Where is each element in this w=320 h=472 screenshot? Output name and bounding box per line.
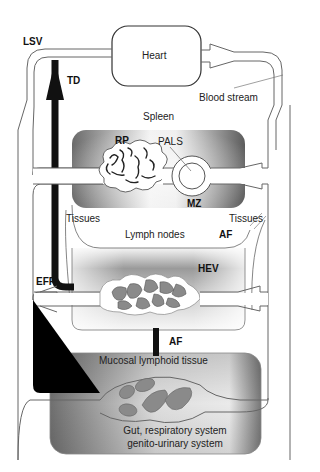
mz-label: MZ (187, 199, 201, 209)
lymph-nodes-label: Lymph nodes (125, 230, 185, 240)
hev-label: HEV (198, 264, 219, 274)
blood-stream-pointer (234, 75, 283, 88)
rp-label: RP (115, 136, 129, 146)
pals-label: PALS (158, 137, 183, 147)
gut-label-line2: genito-urinary system (100, 439, 250, 449)
blood-stream-label: Blood stream (199, 93, 258, 103)
tissues-right-label: Tissues (229, 214, 263, 224)
af-bottom-label: AF (169, 337, 182, 347)
mucosal-label: Mucosal lymphoid tissue (99, 356, 208, 366)
spleen-label: Spleen (143, 112, 174, 122)
gut-label-line1: Gut, respiratory system (100, 426, 250, 436)
lsv-label: LSV (23, 37, 42, 47)
eff-label: EFF (36, 277, 55, 287)
heart-label: Heart (142, 51, 166, 61)
td-label: TD (67, 76, 80, 86)
af-top-label: AF (219, 230, 232, 240)
tissues-left-label: Tissues (66, 214, 100, 224)
